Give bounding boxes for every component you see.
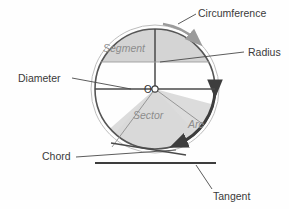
- circumference-leader: [178, 14, 196, 24]
- label-arc: Arc: [187, 118, 205, 130]
- chord-leader: [76, 150, 176, 157]
- segment-region: [90, 20, 222, 62]
- label-segment: Segment: [103, 42, 146, 54]
- label-tangent: Tangent: [213, 190, 250, 202]
- label-centre-point: O: [144, 84, 152, 95]
- label-diameter: Diameter: [18, 72, 61, 84]
- tangent-leader: [196, 165, 212, 189]
- label-sector: Sector: [133, 109, 164, 121]
- label-chord: Chord: [42, 150, 71, 162]
- label-radius: Radius: [248, 46, 281, 58]
- label-circumference: Circumference: [198, 7, 266, 19]
- diameter-leader: [72, 78, 131, 89]
- circle-parts-diagram: Segment Sector Arc O Circumference Radiu…: [0, 0, 289, 209]
- centre-point: [152, 86, 158, 92]
- diagram-canvas: Segment Sector Arc O Circumference Radiu…: [0, 0, 289, 209]
